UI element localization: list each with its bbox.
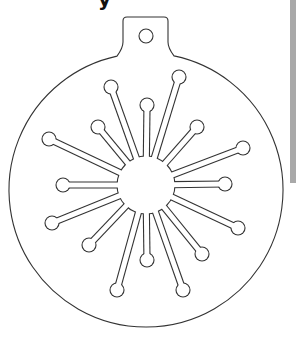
ornament-canvas: y: [0, 0, 296, 339]
cropped-title-glyph: y: [98, 0, 111, 9]
ornament-outline-icon: [0, 0, 296, 339]
side-scroll-strip: [290, 0, 296, 183]
